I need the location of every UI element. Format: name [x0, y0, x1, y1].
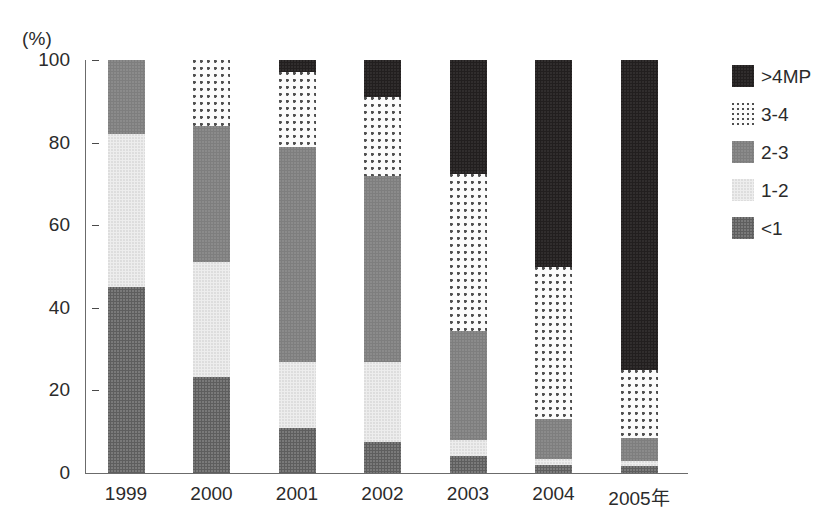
y-axis-tick-labels: 020406080100	[14, 0, 70, 530]
bar-segment-2-3	[621, 438, 658, 461]
legend-swatch-icon	[732, 179, 754, 201]
legend-label: >4MP	[761, 67, 811, 86]
bar-segment-gt4MP	[279, 60, 316, 72]
bar-segment-3-4	[193, 60, 230, 126]
legend-item: >4MP	[732, 60, 832, 92]
bar-segment-1-2	[450, 440, 487, 457]
bar-segment-1-2	[535, 459, 572, 465]
bar-segment-lt1	[450, 456, 487, 473]
bar-segment-2-3	[279, 147, 316, 362]
bar-segment-1-2	[193, 262, 230, 377]
bar-segment-lt1	[535, 465, 572, 473]
stacked-bar-chart: (%) 020406080100 19992000200120022003200…	[0, 0, 834, 530]
legend-swatch-icon	[732, 65, 754, 87]
bar-segment-lt1	[621, 466, 658, 473]
plot-area	[85, 60, 688, 473]
legend-label: 1-2	[761, 181, 788, 200]
legend-swatch-icon	[732, 141, 754, 163]
y-axis-tick-label: 0	[14, 462, 70, 484]
bar-segment-3-4	[535, 267, 572, 420]
legend-label: 2-3	[761, 143, 788, 162]
bar-2002	[364, 60, 401, 473]
bar-2000	[193, 60, 230, 473]
bar-segment-gt4MP	[364, 60, 401, 97]
bar-segment-lt1	[108, 287, 145, 473]
legend-label: <1	[761, 219, 783, 238]
legend-swatch-icon	[732, 103, 754, 125]
y-axis-tick-label: 40	[14, 297, 70, 319]
legend-label: 3-4	[761, 105, 788, 124]
bar-segment-1-2	[621, 461, 658, 466]
bar-segment-gt4MP	[535, 60, 572, 267]
bar-2005年	[621, 60, 658, 473]
bar-segment-1-2	[108, 134, 145, 287]
chart-legend: >4MP3-42-31-2<1	[732, 60, 832, 250]
legend-item: <1	[732, 212, 832, 244]
legend-item: 1-2	[732, 174, 832, 206]
bar-segment-3-4	[279, 72, 316, 146]
bar-segment-gt4MP	[450, 60, 487, 174]
bar-segment-lt1	[364, 442, 401, 473]
bar-segment-2-3	[450, 331, 487, 440]
y-axis-tick-label: 80	[14, 132, 70, 154]
bar-segment-2-3	[108, 60, 145, 134]
bar-segment-2-3	[193, 126, 230, 262]
legend-item: 3-4	[732, 98, 832, 130]
y-axis-tick-label: 100	[14, 49, 70, 71]
legend-item: 2-3	[732, 136, 832, 168]
bar-segment-lt1	[193, 377, 230, 473]
y-axis-tick-label: 60	[14, 214, 70, 236]
bar-segment-2-3	[364, 176, 401, 362]
bar-1999	[108, 60, 145, 473]
bar-2001	[279, 60, 316, 473]
bar-segment-3-4	[364, 97, 401, 175]
bar-segment-gt4MP	[621, 60, 658, 370]
bar-segment-1-2	[279, 362, 316, 429]
x-axis-line	[85, 473, 688, 474]
bar-segment-2-3	[535, 419, 572, 458]
bar-2003	[450, 60, 487, 473]
y-axis-tick-label: 20	[14, 379, 70, 401]
bar-2004	[535, 60, 572, 473]
bar-segment-1-2	[364, 362, 401, 443]
bar-segment-3-4	[621, 370, 658, 438]
legend-swatch-icon	[732, 217, 754, 239]
x-axis-tick-label: 2005年	[584, 483, 694, 510]
bar-segment-3-4	[450, 174, 487, 331]
bar-segment-lt1	[279, 428, 316, 473]
